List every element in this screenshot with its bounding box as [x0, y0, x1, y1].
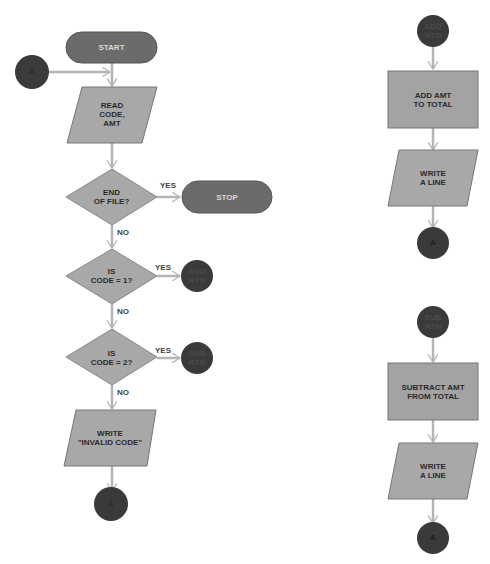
write-invalid-label: WRITE "INVALID CODE": [62, 429, 158, 447]
add-rtn-connector-label: ADD RTN: [181, 267, 213, 285]
code2-yes-label: YES: [155, 346, 171, 355]
sub-write-label: WRITE A LINE: [388, 462, 478, 480]
decision-eof-label: END OF FILE?: [66, 188, 157, 206]
add-rtn-entry-label: ADD RTN: [417, 22, 449, 40]
add-write-label: WRITE A LINE: [388, 169, 478, 187]
eof-no-label: NO: [117, 228, 129, 237]
decision-code1-label: IS CODE = 1?: [66, 267, 157, 285]
add-process-label: ADD AMT TO TOTAL: [388, 91, 478, 109]
sub-exit-label: A: [417, 533, 449, 542]
stop-label: STOP: [182, 193, 272, 202]
entry-connector-label: A: [15, 67, 49, 76]
code2-no-label: NO: [117, 388, 129, 397]
sub-rtn-connector-label: SUB RTN: [181, 349, 213, 367]
code1-no-label: NO: [117, 307, 129, 316]
sub-process-label: SUBTRACT AMT FROM TOTAL: [388, 383, 478, 401]
decision-code2-label: IS CODE = 2?: [66, 349, 157, 367]
exit-connector-label: A: [94, 499, 128, 508]
start-label: START: [66, 43, 157, 52]
sub-rtn-entry-label: SUB RTN: [417, 313, 449, 331]
add-exit-label: A: [417, 238, 449, 247]
eof-yes-label: YES: [160, 181, 176, 190]
read-input-label: READ CODE, AMT: [67, 101, 157, 128]
code1-yes-label: YES: [155, 263, 171, 272]
